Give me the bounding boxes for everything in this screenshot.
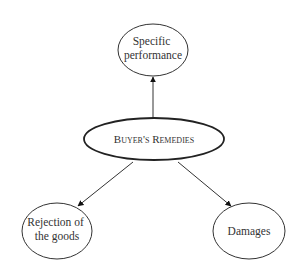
node-label-line: Rejection of <box>27 216 84 229</box>
node-damages: Damages <box>213 203 285 259</box>
node-label-line: Specific <box>133 35 171 48</box>
center-label: Buyer's Remedies <box>114 133 194 145</box>
node-rejection-of-goods: Rejection of the goods <box>22 203 92 259</box>
node-label-line: performance <box>124 49 182 62</box>
arrow-to-damages <box>178 162 231 206</box>
node-label: Damages <box>228 225 271 238</box>
node-label-line: the goods <box>35 230 80 243</box>
node-buyers-remedies: Buyer's Remedies <box>84 118 224 160</box>
arrow-to-rejection <box>78 162 133 206</box>
node-specific-performance: Specific performance <box>118 24 188 76</box>
svg-text:Rejection of the goods: Rejection of the goods <box>27 216 86 243</box>
remedies-diagram: Specific performance Buyer's Remedies Re… <box>0 0 303 275</box>
